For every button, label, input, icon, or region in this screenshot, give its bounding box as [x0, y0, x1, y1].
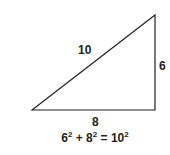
horizontal-leg-label: 8 — [92, 116, 99, 128]
term-b-base: 8 — [86, 131, 93, 145]
term-b-exponent: 2 — [93, 130, 97, 139]
plus-sign: + — [76, 131, 83, 145]
term-c-exponent: 2 — [124, 130, 128, 139]
equals-sign: = — [101, 131, 108, 145]
hypotenuse-label: 10 — [78, 44, 91, 56]
term-c-base: 10 — [111, 131, 124, 145]
term-a-base: 6 — [61, 131, 68, 145]
vertical-leg-label: 6 — [159, 60, 166, 72]
term-a-exponent: 2 — [68, 130, 72, 139]
pythagorean-equation: 62 + 82 = 102 — [0, 132, 170, 144]
triangle-shape — [32, 15, 155, 110]
